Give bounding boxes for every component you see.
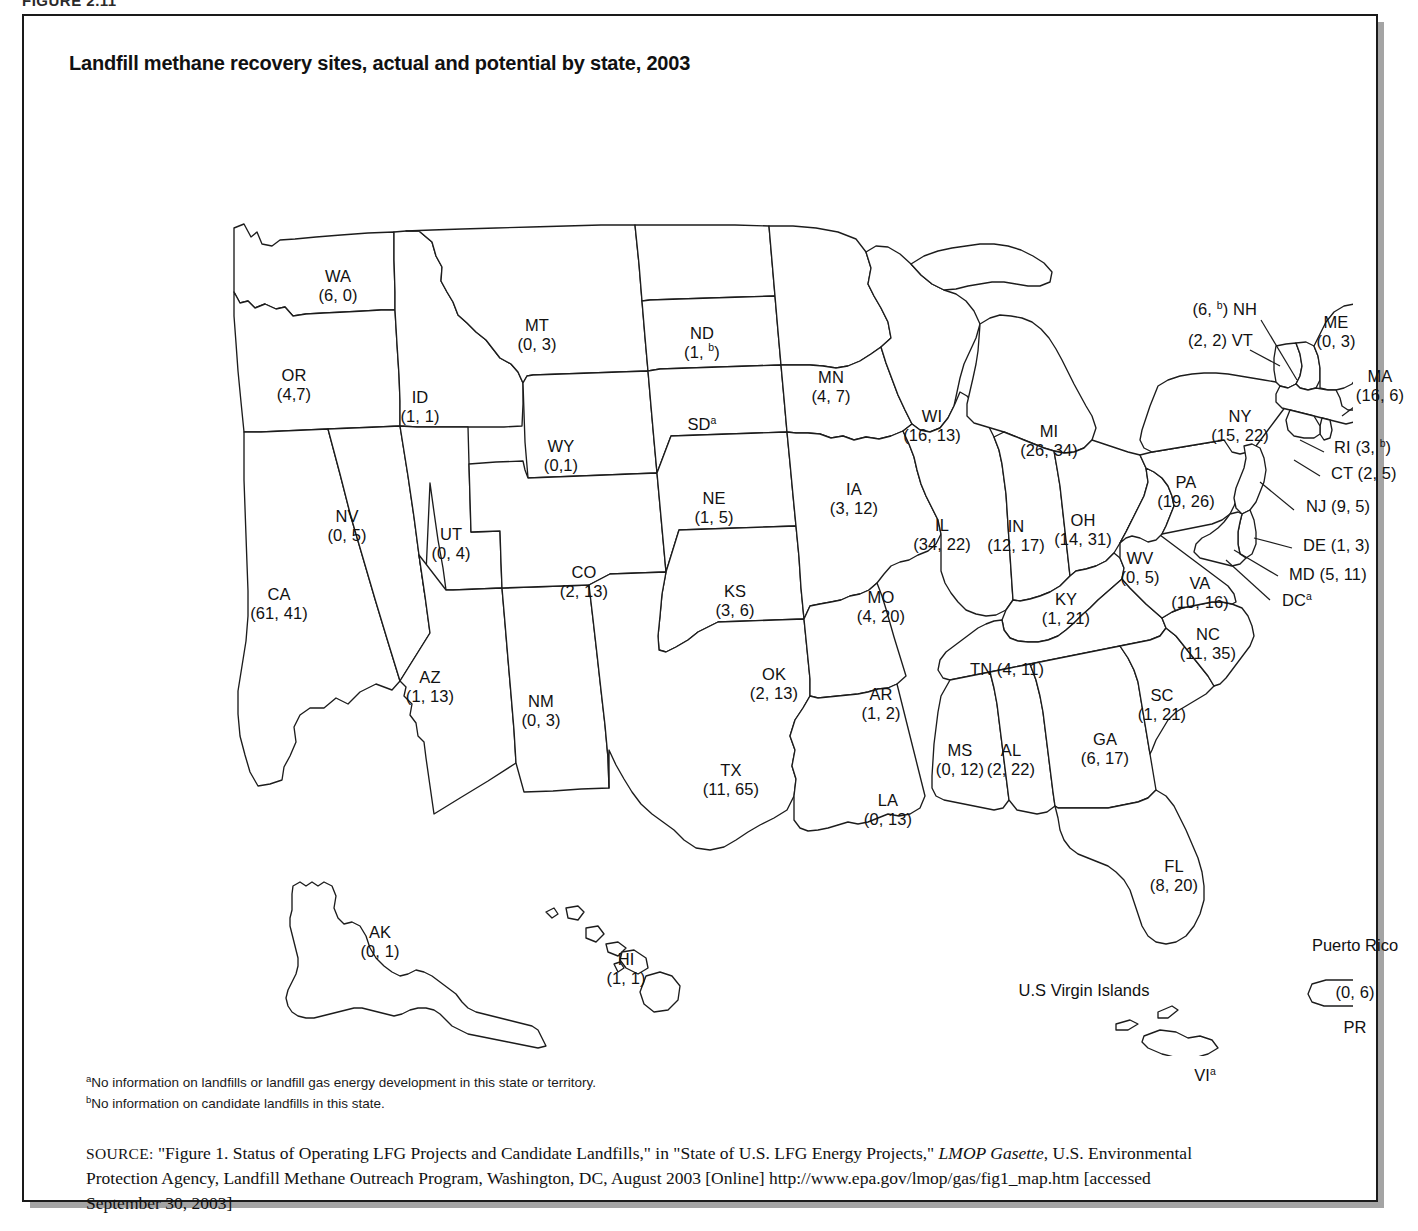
- state-values: (4, 11): [997, 660, 1044, 678]
- state-values: (4, 20): [857, 607, 905, 626]
- state-label-KY: KY (1, 21): [1042, 590, 1090, 628]
- state-label-CA: CA (61, 41): [250, 585, 308, 623]
- figure-number-header: FIGURE 2.11: [22, 0, 117, 6]
- state-label-NC: NC (11, 35): [1180, 625, 1236, 663]
- state-label-WV: WV (0, 5): [1120, 549, 1159, 587]
- state-label-IN: IN (12, 17): [987, 517, 1045, 555]
- state-values: (2, 13): [560, 582, 608, 601]
- state-abbr: MD: [1289, 565, 1315, 583]
- state-abbr: MS: [936, 741, 984, 760]
- state-abbr: AZ: [406, 668, 454, 687]
- state-label-LA: LA (0, 13): [864, 791, 912, 829]
- state-label-PA: PA (19, 26): [1157, 473, 1215, 511]
- state-label-MD: MD (5, 11): [1289, 565, 1367, 584]
- state-outlines: [138, 224, 1353, 1056]
- state-abbr: IL: [913, 516, 971, 535]
- state-label-RI: RI (3, b): [1334, 438, 1391, 457]
- state-label-HI: HI (1, 1): [606, 950, 645, 988]
- state-abbr: OH: [1054, 511, 1112, 530]
- state-label-SC: SC (1, 21): [1138, 686, 1186, 724]
- state-values: (0, 3): [1316, 332, 1355, 351]
- state-abbr: RI: [1334, 438, 1351, 456]
- state-values: (10, 16): [1171, 593, 1229, 612]
- state-abbr: AL: [987, 741, 1035, 760]
- state-values: (6, 0): [318, 286, 357, 305]
- state-abbr: AK: [360, 923, 399, 942]
- state-abbr: NM: [521, 692, 560, 711]
- state-abbr: VT: [1232, 331, 1253, 349]
- state-values: (3, b): [1355, 438, 1391, 456]
- state-values: (1, 3): [1331, 536, 1370, 554]
- state-values: (0, 12): [936, 760, 984, 779]
- state-values: (0, 5): [327, 526, 366, 545]
- state-abbr: ME: [1316, 313, 1355, 332]
- state-label-MT: MT (0, 3): [517, 316, 556, 354]
- state-abbr: OR: [277, 366, 311, 385]
- state-actual-value: 6: [1198, 300, 1207, 318]
- state-abbr: FL: [1150, 857, 1198, 876]
- state-label-NJ: NJ (9, 5): [1306, 497, 1370, 516]
- state-label-NY: NY (15, 22): [1211, 407, 1269, 445]
- state-values: (15, 22): [1211, 426, 1269, 445]
- territory-abbr: VIa: [1194, 1066, 1216, 1085]
- state-label-NE: NE (1, 5): [694, 489, 733, 527]
- source-keyword: SOURCE:: [86, 1145, 154, 1162]
- state-label-SD: SDa: [687, 415, 716, 434]
- state-values: (0, 4): [431, 544, 470, 563]
- state-values: (1, 1): [606, 969, 645, 988]
- state-abbr: SDa: [687, 415, 716, 434]
- state-values: (9, 5): [1331, 497, 1370, 515]
- state-values: (4, 7): [811, 387, 850, 406]
- state-values: (0, 13): [864, 810, 912, 829]
- state-abbr: TN: [970, 660, 992, 678]
- state-abbr: ID: [400, 388, 439, 407]
- state-values: (1, 13): [406, 687, 454, 706]
- state-label-AK: AK (0, 1): [360, 923, 399, 961]
- state-abbr: GA: [1081, 730, 1129, 749]
- state-abbr: NJ: [1306, 497, 1326, 515]
- state-label-DC: DCa: [1282, 591, 1312, 610]
- state-label-ND: ND (1, b): [684, 324, 720, 362]
- state-label-OK: OK (2, 13): [750, 665, 798, 703]
- state-label-AL: AL (2, 22): [987, 741, 1035, 779]
- footnote-b: bNo information on candidate landfills i…: [86, 1094, 596, 1115]
- state-values: (11, 65): [703, 780, 759, 799]
- state-values: (0, 5): [1120, 568, 1159, 587]
- footnote-marker-b: b: [1380, 437, 1386, 449]
- state-label-VA: VA (10, 16): [1171, 574, 1229, 612]
- state-label-NH: (6, b) NH: [1192, 300, 1257, 319]
- state-label-GA: GA (6, 17): [1081, 730, 1129, 768]
- state-label-NM: NM (0, 3): [521, 692, 560, 730]
- state-values: (1, 5): [694, 508, 733, 527]
- state-abbr: CA: [250, 585, 308, 604]
- state-values: (6, 17): [1081, 749, 1129, 768]
- footnote-b-text: No information on candidate landfills in…: [91, 1096, 384, 1111]
- state-values: (34, 22): [913, 535, 971, 554]
- source-part1: "Figure 1. Status of Operating LFG Proje…: [154, 1143, 939, 1163]
- state-label-CT: CT (2, 5): [1331, 464, 1397, 483]
- state-values: (1, 21): [1138, 705, 1186, 724]
- footnote-marker-a: a: [711, 414, 717, 426]
- state-abbr: KS: [715, 582, 754, 601]
- state-abbr: MA: [1356, 367, 1404, 386]
- state-label-WY: WY (0,1): [544, 437, 578, 475]
- state-abbr: MI: [1020, 422, 1078, 441]
- state-abbr: LA: [864, 791, 912, 810]
- footnote-a: aNo information on landfills or landfill…: [86, 1073, 596, 1094]
- footnote-marker-a: a: [1306, 590, 1312, 602]
- state-values: (6, b): [1192, 300, 1228, 318]
- footnote-marker-a: a: [1210, 1065, 1216, 1077]
- territory-caption-puerto-rico: Puerto Rico: [1312, 936, 1398, 955]
- footnote-a-text: No information on landfills or landfill …: [91, 1075, 596, 1090]
- state-label-OH: OH (14, 31): [1054, 511, 1112, 549]
- state-values: (2, 2): [1188, 331, 1227, 349]
- state-abbr: CO: [560, 563, 608, 582]
- state-values: (1, 2): [861, 704, 900, 723]
- state-abbr: SC: [1138, 686, 1186, 705]
- state-values: (5, 11): [1320, 565, 1367, 583]
- state-values: (3, 6): [715, 601, 754, 620]
- state-values: (61, 41): [250, 604, 308, 623]
- state-label-OR: OR (4,7): [277, 366, 311, 404]
- state-values: (14, 31): [1054, 530, 1112, 549]
- state-abbr: HI: [606, 950, 645, 969]
